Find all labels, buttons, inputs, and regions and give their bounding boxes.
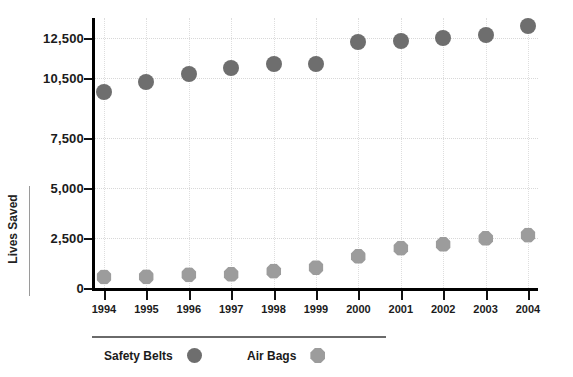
chart-screenshot: Lives Saved 12,50010,5007,5005,0002,5000…: [0, 0, 573, 377]
y-axis-tick-label: 10,500: [14, 71, 84, 86]
y-axis-tick-label: 12,500: [14, 31, 84, 46]
x-axis-tick: [401, 291, 403, 300]
x-axis-tick-label: 1994: [81, 303, 127, 315]
x-axis-tick-label: 2004: [505, 303, 551, 315]
chart-legend: Safety BeltsAir Bags: [92, 336, 386, 370]
octagon-marker-icon: [310, 348, 325, 363]
data-point-marker: [96, 84, 112, 100]
x-axis-tick: [189, 291, 191, 300]
data-point-marker: [436, 237, 451, 252]
data-point-marker: [478, 231, 493, 246]
x-axis-tick-label: 1995: [123, 303, 169, 315]
data-point-marker: [309, 260, 324, 275]
data-point-marker: [181, 267, 196, 282]
legend-label: Air Bags: [247, 349, 296, 363]
data-point-marker: [521, 228, 536, 243]
gridline-horizontal: [92, 38, 538, 40]
legend-item-2[interactable]: Air Bags: [247, 348, 325, 363]
data-point-marker: [138, 74, 154, 90]
x-axis-tick: [231, 291, 233, 300]
x-axis-tick-label: 1999: [293, 303, 339, 315]
gridline-vertical: [146, 18, 148, 288]
legend-rule: [92, 336, 386, 338]
data-point-marker: [181, 66, 197, 82]
y-axis-line: [92, 18, 95, 290]
gridline-vertical: [358, 18, 360, 288]
x-axis-tick-label: 2002: [420, 303, 466, 315]
data-point-marker: [139, 269, 154, 284]
legend-label: Safety Belts: [104, 349, 173, 363]
data-point-marker: [350, 34, 366, 50]
data-point-marker: [308, 56, 324, 72]
cropped-title-remnant: [96, 0, 236, 2]
plot-area: [92, 18, 538, 288]
y-axis-tick-label: 5,000: [14, 181, 84, 196]
x-axis-tick: [486, 291, 488, 300]
x-axis-tick-label: 1996: [166, 303, 212, 315]
data-point-marker: [97, 270, 112, 285]
y-axis-labels: 12,50010,5007,5005,0002,5000: [6, 18, 84, 290]
gridline-horizontal: [92, 138, 538, 140]
y-axis-tick-label: 7,500: [14, 131, 84, 146]
gridline-vertical: [189, 18, 191, 288]
gridline-vertical: [528, 18, 530, 288]
gridline-horizontal: [92, 78, 538, 80]
data-point-marker: [393, 241, 408, 256]
data-point-marker: [351, 249, 366, 264]
data-point-marker: [435, 30, 451, 46]
x-axis-tick-label: 1997: [208, 303, 254, 315]
x-axis-tick: [274, 291, 276, 300]
data-point-marker: [478, 27, 494, 43]
x-axis-tick: [528, 291, 530, 300]
legend-item-1[interactable]: Safety Belts: [104, 348, 202, 363]
x-axis-tick-label: 2001: [378, 303, 424, 315]
gridline-horizontal: [92, 188, 538, 190]
x-axis-tick: [104, 291, 106, 300]
gridline-vertical: [486, 18, 488, 288]
data-point-marker: [223, 60, 239, 76]
x-axis-tick: [316, 291, 318, 300]
x-axis-tick-label: 2003: [463, 303, 509, 315]
data-point-marker: [393, 33, 409, 49]
y-axis-tick-label: 0: [14, 281, 84, 296]
x-axis-line: [92, 288, 538, 291]
data-point-marker: [224, 267, 239, 282]
gridline-vertical: [104, 18, 106, 288]
x-axis-tick: [443, 291, 445, 300]
x-axis-tick: [146, 291, 148, 300]
x-axis-tick: [358, 291, 360, 300]
gridline-horizontal: [92, 238, 538, 240]
x-axis-tick-label: 2000: [335, 303, 381, 315]
x-axis-tick-label: 1998: [251, 303, 297, 315]
y-axis-tick-label: 2,500: [14, 231, 84, 246]
data-point-marker: [266, 56, 282, 72]
data-point-marker: [520, 18, 536, 34]
data-point-marker: [266, 264, 281, 279]
gridline-vertical: [231, 18, 233, 288]
circle-marker-icon: [187, 348, 202, 363]
